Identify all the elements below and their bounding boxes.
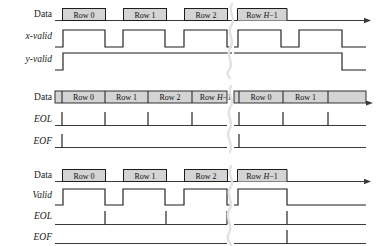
panel-eol-eof-continuous: Data EOL EOF Row 0 Row 1 Row 2 Row H−1 R…	[33, 86, 373, 152]
signal-label-data-3: Data	[34, 170, 53, 180]
signal-label-data-2: Data	[34, 92, 53, 102]
waveform-y-valid	[55, 53, 366, 70]
waveform-x-valid	[55, 30, 366, 47]
data-band-label-row1-2: Row 1	[116, 93, 137, 102]
data-band-label-rowH-2: Row H−1	[200, 93, 231, 102]
signal-label-eof-3: EOF	[33, 232, 53, 242]
signal-label-data-1: Data	[34, 9, 53, 19]
data-box-label-rowH-3: Row H−1	[246, 172, 277, 181]
data-box-group-3: Row 0 Row 1 Row 2 Row H−1	[63, 170, 288, 182]
data-box-label-row2-3: Row 2	[195, 172, 216, 181]
right-arrow-icon-2	[366, 101, 373, 106]
signal-label-valid-3: Valid	[32, 190, 52, 200]
signal-label-x-valid: x-valid	[25, 31, 53, 41]
waveform-valid-3	[55, 189, 366, 205]
data-band-label-row2-2: Row 2	[159, 93, 180, 102]
data-box-label-row1-3: Row 1	[134, 172, 155, 181]
data-box-label-row0-3: Row 0	[73, 172, 94, 181]
signal-label-y-valid: y-valid	[25, 54, 53, 64]
panel-valid-eol-eof: Data Valid EOL EOF Row 0 Row 1 Row 2 Row…	[32, 166, 371, 245]
eol-pulses-3	[105, 211, 287, 225]
data-box-label-row1-1: Row 1	[134, 11, 155, 20]
timing-diagram-figure: Data x-valid y-valid Row 0 Row 1 Row 2 R…	[0, 0, 376, 246]
data-band-label-row0-2: Row 0	[73, 93, 94, 102]
signal-label-eol-2: EOL	[33, 114, 52, 124]
data-box-label-row0-1: Row 0	[73, 11, 94, 20]
signal-label-eof-2: EOF	[33, 136, 53, 146]
data-band-label-row0b-2: Row 0	[250, 93, 271, 102]
signal-label-eol-3: EOL	[33, 211, 52, 221]
eol-pulses-2	[62, 112, 328, 126]
eof-pulses-2	[62, 134, 239, 148]
data-box-label-row2-1: Row 2	[195, 11, 216, 20]
data-box-label-rowH-1: Row H−1	[246, 11, 277, 20]
data-band-label-row1b-2: Row 1	[295, 93, 316, 102]
panel-xy-valid: Data x-valid y-valid Row 0 Row 1 Row 2 R…	[25, 4, 371, 78]
right-arrow-icon-3	[364, 179, 371, 184]
time-break-squiggle-1	[227, 4, 233, 78]
data-box-group-1: Row 0 Row 1 Row 2 Row H−1	[63, 9, 288, 21]
right-arrow-icon-1	[364, 18, 371, 23]
